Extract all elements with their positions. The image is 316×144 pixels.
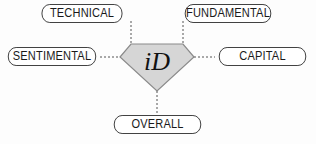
diagram-canvas: iD TECHNICAL FUNDAMENTAL SENTIMENTAL CAP… [0, 0, 316, 144]
node-technical: TECHNICAL [42, 4, 123, 23]
node-capital: CAPITAL [219, 47, 306, 66]
node-sentimental: SENTIMENTAL [8, 47, 96, 66]
node-fundamental: FUNDAMENTAL [185, 4, 271, 23]
center-logo-text: iD [144, 47, 170, 76]
node-overall: OVERALL [114, 115, 201, 134]
